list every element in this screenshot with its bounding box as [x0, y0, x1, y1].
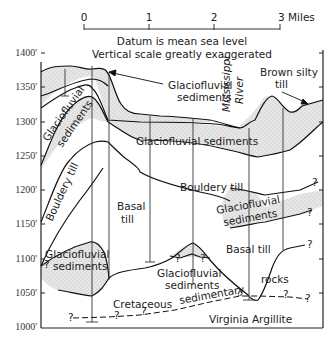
scale-tick-3: 3 Miles — [278, 11, 315, 23]
y-tick-1400: 1400' — [15, 47, 37, 58]
label-mississippi: Mississippi — [220, 56, 232, 112]
label-rocks: rocks — [261, 273, 289, 285]
svg-text:?: ? — [175, 252, 181, 264]
y-tick-1150: 1150' — [16, 218, 38, 229]
geologic-cross-section: 0 1 2 3 Miles Datum is mean sea level Ve… — [0, 0, 333, 344]
label-glaciofluvial-bc: Glaciofluvial — [157, 267, 221, 279]
scale-tick-0: 0 — [81, 11, 88, 23]
svg-text:?: ? — [305, 292, 311, 304]
y-tick-1350: 1350' — [15, 81, 37, 92]
vertical-scale-note: Vertical scale greatly exaggerated — [92, 48, 272, 60]
label-basal-till-2: till — [121, 213, 134, 225]
svg-text:?: ? — [114, 309, 120, 321]
svg-text:?: ? — [68, 311, 74, 323]
label-bouldery-till-center: Bouldery till — [180, 181, 243, 193]
y-tick-1100: 1100' — [16, 253, 38, 264]
svg-text:?: ? — [283, 288, 289, 300]
svg-text:?: ? — [200, 252, 206, 264]
datum-note: Datum is mean sea level — [117, 35, 247, 47]
label-glaciofluvial-bl-2: sediments — [53, 260, 107, 272]
svg-text:?: ? — [312, 176, 318, 188]
scale-tick-2: 2 — [211, 11, 218, 23]
label-glaciofluvial-bl: Glaciofluvial — [45, 248, 109, 260]
svg-text:?: ? — [236, 286, 242, 298]
label-basal-till-right: Basal till — [226, 243, 271, 255]
label-river: River — [233, 76, 245, 104]
label-virginia-argillite: Virginia Argillite — [209, 313, 292, 325]
scale-bar: 0 1 2 3 Miles — [81, 11, 315, 30]
y-tick-1250: 1250' — [15, 150, 37, 161]
y-tick-1300: 1300' — [15, 116, 37, 127]
label-brown-silty-2: till — [275, 78, 288, 90]
y-tick-1200: 1200' — [15, 184, 37, 195]
label-glaciofluvial-band: Glaciofluvial sediments — [136, 135, 258, 147]
y-tick-1000: 1000' — [15, 321, 37, 332]
svg-text:?: ? — [44, 258, 50, 270]
scale-tick-1: 1 — [146, 11, 153, 23]
y-tick-1050: 1050' — [15, 287, 37, 298]
label-basal-till: Basal — [117, 200, 145, 212]
label-bouldery-till-left: Bouldery till — [43, 161, 81, 223]
svg-text:?: ? — [141, 305, 147, 317]
svg-text:?: ? — [307, 238, 313, 250]
svg-text:?: ? — [307, 206, 313, 218]
label-brown-silty: Brown silty — [260, 66, 318, 78]
